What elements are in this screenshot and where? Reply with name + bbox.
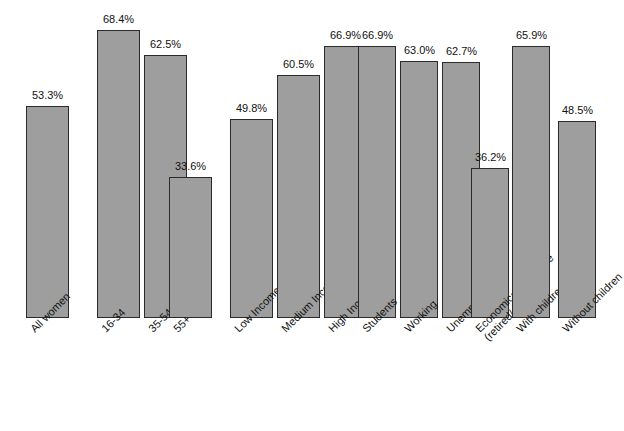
bar-55-plus	[169, 177, 212, 318]
bar-with-children	[512, 46, 550, 318]
bar-low-income	[230, 119, 273, 318]
bar-students	[358, 46, 396, 318]
bar-value-all-women: 53.3%	[26, 89, 69, 101]
bar-value-medium-income: 60.5%	[277, 58, 320, 70]
bar-value-low-income: 49.8%	[230, 102, 273, 114]
bar-without-children	[558, 121, 596, 318]
bar-value-35-54: 62.5%	[144, 38, 187, 50]
bar-value-55-plus: 33.6%	[169, 160, 212, 172]
bar-all-women	[26, 106, 69, 318]
bar-16-34	[97, 30, 140, 318]
bar-value-unemployed: 62.7%	[440, 45, 483, 57]
bar-value-without-children: 48.5%	[556, 104, 599, 116]
bar-value-16-34: 68.4%	[97, 13, 140, 25]
bar-working	[400, 61, 438, 318]
bar-value-economically-inactive: 36.2%	[469, 151, 512, 163]
bar-value-students: 66.9%	[356, 29, 399, 41]
bar-value-working: 63.0%	[398, 44, 441, 56]
bar-medium-income	[277, 75, 320, 318]
bar-value-with-children: 65.9%	[510, 29, 553, 41]
